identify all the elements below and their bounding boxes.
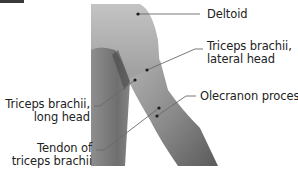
label-tendon-triceps: Tendon of triceps brachii — [2, 142, 92, 168]
label-triceps-long-line2: long head — [2, 111, 90, 124]
label-deltoid-line1: Deltoid — [207, 7, 247, 21]
label-triceps-long-head: Triceps brachii, long head — [2, 98, 90, 124]
label-tendon-line2: triceps brachii — [2, 155, 92, 168]
label-olecranon-process: Olecranon process — [200, 90, 298, 103]
label-deltoid: Deltoid — [207, 8, 247, 21]
label-olecranon-line1: Olecranon process — [200, 89, 298, 103]
label-triceps-lateral-line2: lateral head — [207, 53, 292, 66]
label-triceps-lateral-head: Triceps brachii, lateral head — [207, 40, 292, 66]
